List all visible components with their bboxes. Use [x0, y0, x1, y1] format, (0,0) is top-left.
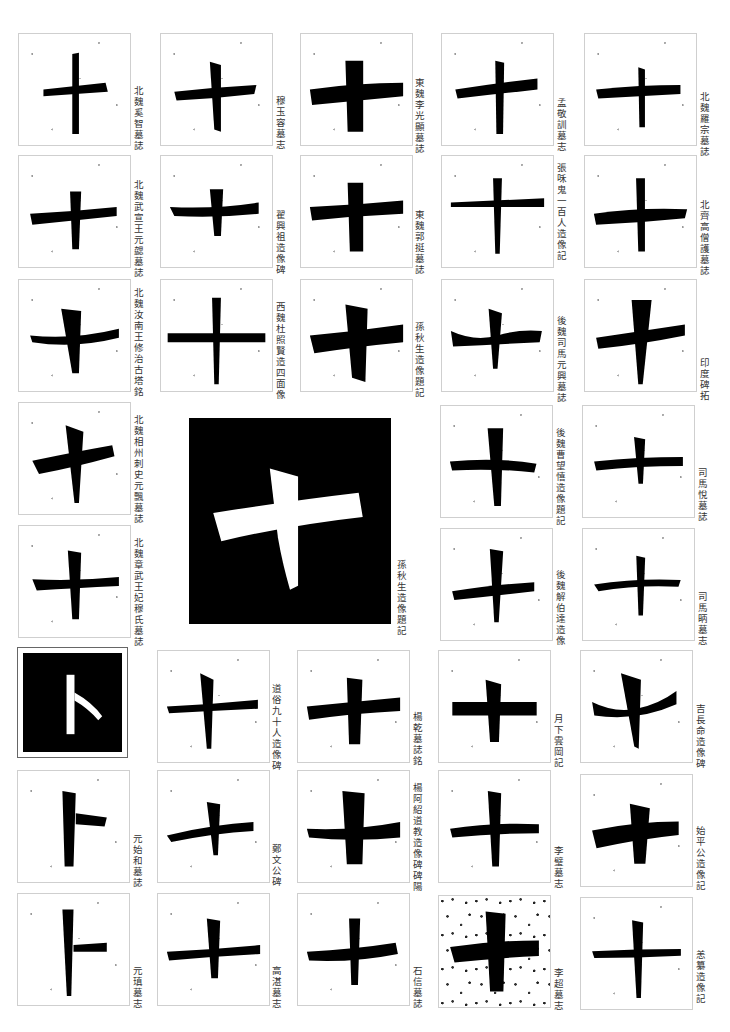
calligraphy-shi-glyph — [19, 34, 130, 145]
sample-caption-18: 後魏曹望憘造像題記 — [555, 428, 566, 527]
sample-tile-2 — [160, 33, 273, 146]
sample-caption-8: 東魏郭挺墓誌 — [414, 210, 425, 276]
calligraphy-shi-glyph-inverse — [189, 418, 391, 624]
sample-caption-14: 後魏司馬元興墓誌 — [556, 316, 567, 404]
sample-tile-29 — [157, 770, 270, 883]
calligraphy-shi-glyph — [442, 34, 553, 145]
sample-tile-27 — [580, 650, 693, 763]
calligraphy-shi-glyph — [158, 894, 269, 1005]
calligraphy-shi-glyph — [19, 403, 130, 514]
sample-caption-12: 西魏杜照賢造四面像 — [275, 302, 286, 401]
sample-caption-31: 李璧墓志 — [553, 846, 564, 890]
calligraphy-shi-glyph — [298, 651, 409, 762]
sample-caption-11: 北魏汝南王修治古塔銘 — [133, 288, 144, 398]
sample-tile-25 — [297, 650, 410, 763]
sample-tile-24 — [157, 650, 270, 763]
sample-tile-22 — [582, 528, 695, 641]
sample-tile-4 — [441, 33, 554, 146]
sample-caption-28: 元始和墓誌 — [132, 834, 143, 889]
sample-tile-7 — [160, 155, 273, 268]
calligraphy-shi-glyph — [301, 34, 412, 145]
sample-caption-30: 楊阿紹道教造像碑碑陽 — [412, 783, 423, 893]
sample-tile-18 — [440, 405, 553, 518]
calligraphy-shi-glyph — [442, 156, 553, 267]
sample-caption-15: 印度碑拓 — [699, 358, 710, 402]
calligraphy-bu-glyph — [18, 894, 129, 1005]
calligraphy-shi-glyph — [19, 526, 130, 637]
sample-caption-5: 北魏羅宗墓誌 — [699, 92, 710, 158]
sample-tile-30 — [297, 770, 410, 883]
calligraphy-shi-glyph — [19, 280, 130, 391]
sample-tile-10 — [584, 155, 697, 268]
sample-caption-9: 張咊鬼一百人造像記 — [556, 163, 567, 262]
sample-caption-4: 孟敬訓墓志 — [556, 98, 567, 153]
sample-caption-37: 恙纂造像記 — [695, 950, 706, 1005]
sample-tile-21 — [440, 528, 553, 641]
calligraphy-shi-glyph — [441, 406, 552, 517]
sample-caption-36: 李超墓志 — [553, 968, 564, 1012]
calligraphy-shi-glyph — [585, 34, 696, 145]
bu-glyph-inverse — [23, 653, 122, 752]
sample-caption-13: 孫秋生造像題記 — [414, 322, 425, 399]
sample-tile-14 — [441, 279, 554, 392]
calligraphy-shi-glyph — [581, 651, 692, 762]
sample-caption-7: 翟興祖造像碑 — [275, 210, 286, 276]
sample-tile-9 — [441, 155, 554, 268]
sample-tile-23-bu-inverse — [17, 647, 128, 758]
sample-caption-6: 北魏武宣王元勰墓誌 — [133, 180, 144, 279]
calligraphy-shi-glyph — [161, 34, 272, 145]
calligraphy-shi-glyph — [585, 156, 696, 267]
sample-caption-21: 後魏解伯達造像 — [555, 570, 566, 647]
calligraphy-shi-glyph — [581, 898, 692, 1009]
sample-tile-26 — [438, 650, 551, 763]
sample-caption-32: 始平公造像記 — [695, 826, 706, 892]
sample-caption-2: 穆玉容墓志 — [275, 96, 286, 151]
sample-tile-3 — [300, 33, 413, 146]
sample-caption-3: 東魏李光顯墓誌 — [414, 78, 425, 155]
calligraphy-shi-glyph — [298, 894, 409, 1005]
sample-caption-25: 楊乾墓誌銘 — [412, 712, 423, 767]
calligraphy-shi-glyph — [439, 771, 550, 882]
calligraphy-shi-glyph — [583, 406, 694, 517]
sample-tile-12 — [160, 279, 273, 392]
calligraphy-shi-glyph — [19, 156, 130, 267]
sample-tile-28 — [17, 770, 130, 883]
sample-caption-1: 北魏奚智墓誌 — [133, 86, 144, 152]
sample-caption-24: 道俗九十人造像碑 — [271, 684, 282, 772]
sample-tile-20 — [18, 525, 131, 638]
sample-tile-15 — [584, 279, 697, 392]
sample-caption-19: 司馬悅墓誌 — [697, 468, 708, 523]
calligraphy-shi-glyph — [301, 280, 412, 391]
sample-tile-31 — [438, 770, 551, 883]
sample-tile-5 — [584, 33, 697, 146]
calligraphy-shi-glyph — [301, 156, 412, 267]
sample-tile-1 — [18, 33, 131, 146]
sample-caption-20: 北魏章武王妃穆氏墓誌 — [133, 538, 144, 648]
sample-tile-34 — [157, 893, 270, 1006]
sample-caption-16: 北魏相州刺史元飄墓誌 — [133, 415, 144, 525]
calligraphy-shi-glyph — [158, 771, 269, 882]
calligraphy-shi-glyph — [583, 529, 694, 640]
calligraphy-shi-glyph — [439, 651, 550, 762]
sample-caption-26: 月下雲岡記 — [553, 714, 564, 769]
calligraphy-shi-glyph — [585, 280, 696, 391]
calligraphy-shi-glyph — [158, 651, 269, 762]
sample-tile-11 — [18, 279, 131, 392]
calligraphy-shi-glyph — [441, 529, 552, 640]
sample-tile-19 — [582, 405, 695, 518]
sample-caption-22: 司馬昞墓志 — [697, 592, 708, 647]
sample-caption-35: 石信墓誌 — [412, 966, 423, 1010]
calligraphy-shi-glyph — [161, 156, 272, 267]
calligraphy-shi-glyph — [298, 771, 409, 882]
sample-tile-16 — [18, 402, 131, 515]
sample-caption-17: 孫秋生造像題記 — [396, 560, 407, 637]
inverse-panel — [23, 653, 122, 752]
sample-tile-17-large-inverse — [189, 418, 391, 624]
sample-tile-37 — [580, 897, 693, 1010]
calligraphy-shi-glyph — [439, 896, 550, 1007]
sample-tile-36 — [438, 895, 551, 1008]
sample-caption-10: 北齊高僧護墓誌 — [699, 200, 710, 277]
sample-caption-34: 高湛墓志 — [271, 966, 282, 1010]
sample-tile-8 — [300, 155, 413, 268]
sample-tile-33 — [17, 893, 130, 1006]
